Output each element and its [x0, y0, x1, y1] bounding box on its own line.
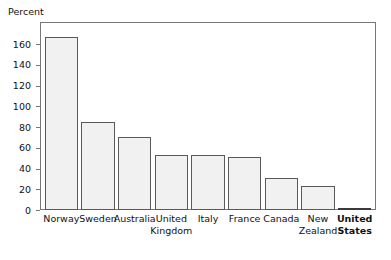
- x-axis-label-group: NorwaySwedenAustraliaUnited KingdomItaly…: [40, 213, 376, 255]
- y-axis-tick-mark: [36, 127, 40, 128]
- y-axis-tick-label: 0: [25, 205, 31, 216]
- y-axis-tick-mark: [36, 148, 40, 149]
- bar: [191, 155, 224, 210]
- x-axis-tick-label: United States: [329, 213, 380, 236]
- y-axis-tick-mark: [36, 189, 40, 190]
- bar: [118, 137, 151, 210]
- bar: [228, 157, 261, 210]
- bar: [301, 186, 334, 210]
- y-axis-tick-mark: [36, 65, 40, 66]
- y-axis-tick-label: 140: [13, 59, 31, 70]
- y-axis-tick-group: 160140120100806040200: [0, 0, 31, 260]
- y-axis-tick-label: 20: [19, 184, 31, 195]
- y-axis-tick-mark: [36, 44, 40, 45]
- y-axis-tick-label: 120: [13, 80, 31, 91]
- y-axis-tick-mark: [36, 210, 40, 211]
- bar: [155, 155, 188, 210]
- y-axis-tick-mark: [36, 86, 40, 87]
- y-axis-tick-label: 100: [13, 101, 31, 112]
- bar: [81, 122, 114, 210]
- y-axis-tick-label: 40: [19, 163, 31, 174]
- y-axis-tick-label: 80: [19, 122, 31, 133]
- y-axis-tick-mark: [36, 106, 40, 107]
- bar: [338, 208, 371, 210]
- bar-chart: Percent 160140120100806040200 NorwaySwed…: [0, 0, 391, 260]
- y-axis-tick-label: 160: [13, 39, 31, 50]
- y-axis-tick-label: 60: [19, 142, 31, 153]
- y-axis-tick-mark: [36, 169, 40, 170]
- bar: [45, 37, 78, 210]
- plot-area: [41, 23, 375, 210]
- bar: [265, 178, 298, 210]
